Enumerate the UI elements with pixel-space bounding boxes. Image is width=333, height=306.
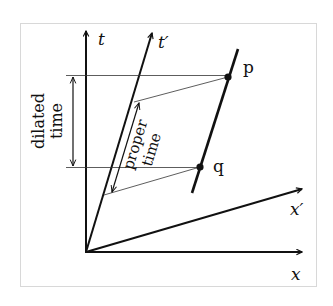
x-prime-axis-label: x′ [290, 199, 304, 219]
dilated-time-label-line2: time [47, 103, 66, 139]
spacetime-diagram: t t′ x x′ p q dilated time proper time [0, 0, 333, 306]
primed-simultaneity-line-p [134, 77, 228, 102]
event-q-dot [196, 163, 203, 170]
x-prime-axis [86, 189, 302, 252]
dilated-time-label-line1: dilated [29, 93, 48, 149]
diagram-frame [21, 24, 317, 287]
t-prime-axis-label: t′ [158, 32, 169, 52]
t-axis-label: t [98, 29, 105, 49]
event-q-label: q [213, 156, 224, 176]
x-axis-label: x [291, 264, 301, 284]
event-p-label: p [243, 57, 254, 77]
event-p-dot [224, 73, 231, 80]
